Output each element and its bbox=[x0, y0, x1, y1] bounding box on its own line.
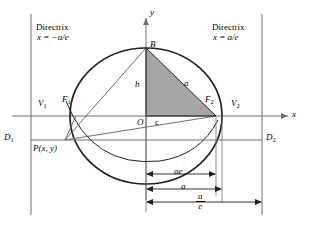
focus-left-subscript: 1 bbox=[68, 98, 71, 105]
origin-label: O bbox=[137, 118, 144, 127]
segment-a-label: a bbox=[184, 79, 189, 88]
dimension-aoe-arrow-right bbox=[255, 199, 262, 205]
dimension-label-a: a bbox=[181, 182, 186, 191]
x-axis-label: x bbox=[292, 110, 296, 119]
directrix-foot-right-subscript: 2 bbox=[273, 136, 276, 143]
dimension-ae-arrow-left bbox=[146, 171, 153, 177]
fraction-a-over-e: a e bbox=[196, 192, 205, 211]
directrix-foot-right-label: D2 bbox=[266, 133, 276, 144]
directrix-left-equation: x = −a/e bbox=[37, 33, 69, 42]
directrix-right-label: Directrix x = a/e bbox=[212, 23, 244, 43]
focus-right-label: F2 bbox=[205, 95, 214, 106]
y-axis-label: y bbox=[150, 8, 154, 17]
dimension-a-arrow-left bbox=[146, 186, 153, 192]
dimension-a-arrow-right bbox=[215, 186, 222, 192]
focus-right-subscript: 2 bbox=[211, 98, 214, 105]
x-axis-arrowhead bbox=[281, 113, 288, 119]
segment-b-f1 bbox=[65, 48, 146, 140]
dimension-label-a-over-e: a e bbox=[196, 192, 205, 211]
segment-b-label: b bbox=[135, 80, 140, 89]
segment-c-label: c bbox=[155, 118, 159, 127]
focus-left-label: F1 bbox=[62, 95, 71, 106]
point-p-label: P(x, y) bbox=[33, 144, 57, 153]
directrix-left-title: Directrix bbox=[36, 22, 68, 32]
directrix-foot-left-subscript: 1 bbox=[11, 136, 14, 143]
dimension-ae-arrow-right bbox=[209, 171, 216, 177]
y-axis-arrowhead bbox=[143, 18, 149, 25]
vertex-left-subscript: 1 bbox=[44, 102, 47, 109]
dimension-aoe-arrow-left bbox=[146, 199, 153, 205]
ellipse-diagram: Directrix x = −a/e Directrix x = a/e y x… bbox=[0, 0, 309, 229]
directrix-right-equation: x = a/e bbox=[213, 33, 244, 42]
vertex-right-label: V2 bbox=[231, 99, 240, 110]
vertex-left-label: V1 bbox=[38, 99, 47, 110]
directrix-right-title: Directrix bbox=[212, 22, 244, 32]
vertex-right-subscript: 2 bbox=[237, 102, 240, 109]
directrix-foot-left-label: D1 bbox=[4, 133, 14, 144]
fraction-denominator: e bbox=[196, 202, 205, 211]
dimension-label-ae: ae bbox=[174, 167, 183, 176]
point-b-label: B bbox=[150, 40, 156, 49]
directrix-left-label: Directrix x = −a/e bbox=[36, 23, 69, 43]
